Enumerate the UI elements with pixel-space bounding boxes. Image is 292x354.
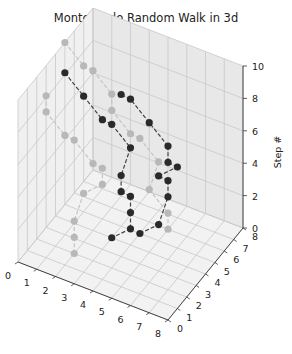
tick-label: 1	[24, 277, 30, 288]
data-point	[61, 132, 68, 139]
data-point	[127, 96, 134, 103]
data-point	[80, 93, 87, 100]
data-point	[71, 250, 78, 257]
data-point	[80, 190, 87, 197]
plot-area: 0123456780123456780246810 Step #	[0, 0, 292, 354]
data-point	[136, 135, 143, 142]
tick-label: 6	[252, 126, 258, 137]
data-point	[108, 107, 115, 114]
tick-label: 8	[252, 93, 258, 104]
data-point	[127, 144, 134, 151]
data-point	[43, 108, 50, 115]
data-point	[118, 91, 125, 98]
tick-label: 3	[61, 292, 67, 303]
data-point	[99, 116, 106, 123]
data-point	[146, 186, 153, 193]
data-point	[71, 137, 78, 144]
data-point	[80, 62, 87, 69]
tick-label: 0	[252, 223, 258, 234]
tick-label: 6	[233, 254, 239, 265]
data-point	[99, 181, 106, 188]
data-point	[108, 234, 115, 241]
data-point	[71, 234, 78, 241]
data-point	[164, 193, 171, 200]
data-point	[118, 188, 125, 195]
data-point	[164, 226, 171, 233]
tick-label: 2	[252, 191, 258, 202]
tick-label: 3	[205, 289, 211, 300]
data-point	[127, 225, 134, 232]
data-point	[127, 193, 134, 200]
tick-label: 4	[80, 299, 86, 310]
tick-label: 1	[186, 312, 192, 323]
data-point	[174, 163, 181, 170]
tick-label: 2	[42, 285, 48, 296]
tick-label: 4	[252, 158, 258, 169]
tick-label: 10	[252, 61, 264, 72]
tick-label: 7	[243, 243, 249, 254]
data-point	[127, 130, 134, 137]
data-point	[108, 121, 115, 128]
data-point	[108, 91, 115, 98]
data-point	[155, 221, 162, 228]
data-point	[61, 69, 68, 76]
tick-label: 5	[224, 266, 230, 277]
data-point	[127, 209, 134, 216]
z-axis-label: Step #	[272, 136, 283, 169]
data-point	[89, 160, 96, 167]
tick-label: 6	[117, 314, 123, 325]
tick-label: 4	[214, 277, 220, 288]
data-point	[146, 119, 153, 126]
data-point	[118, 172, 125, 179]
tick-label: 8	[155, 328, 161, 339]
data-point	[99, 165, 106, 172]
data-point	[61, 39, 68, 46]
data-point	[71, 218, 78, 225]
tick-label: 2	[196, 300, 202, 311]
tick-label: 5	[99, 306, 105, 317]
tick-label: 0	[5, 270, 11, 281]
data-point	[164, 177, 171, 184]
data-point	[164, 159, 171, 166]
data-point	[89, 67, 96, 74]
data-point	[164, 209, 171, 216]
data-point	[155, 172, 162, 179]
data-point	[43, 92, 50, 99]
data-point	[155, 158, 162, 165]
tick-label: 0	[177, 323, 183, 334]
data-point	[164, 143, 171, 150]
tick-label: 7	[136, 321, 142, 332]
data-point	[136, 230, 143, 237]
